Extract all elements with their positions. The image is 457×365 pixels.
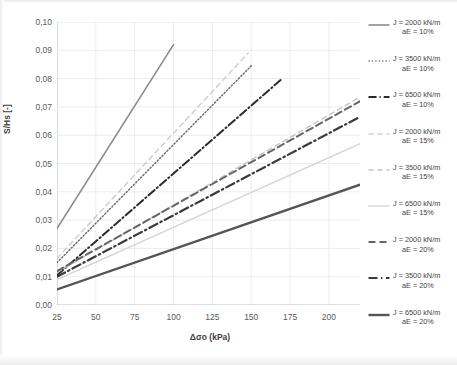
y-tick-label: 0,01 — [8, 272, 52, 282]
legend-label-line2: aE = 20% — [393, 281, 440, 290]
legend-item-1[interactable]: J = 3500 kN/maE = 10% — [368, 54, 456, 73]
series-line-7 — [57, 117, 360, 277]
y-tick-label: 0,08 — [8, 74, 52, 84]
legend-item-3[interactable]: J = 2000 kN/maE = 15% — [368, 127, 456, 146]
legend-swatch-icon — [368, 200, 390, 212]
plot-canvas — [57, 22, 360, 305]
legend-item-0[interactable]: J = 2000 kN/maE = 10% — [368, 18, 456, 37]
x-tick-label: 100 — [159, 312, 189, 322]
legend-swatch-icon — [368, 128, 390, 140]
legend-label-line2: aE = 10% — [393, 64, 440, 73]
legend-label-line1: J = 3500 kN/m — [393, 271, 440, 280]
legend-label-line2: aE = 15% — [393, 172, 440, 181]
legend-label-line2: aE = 15% — [393, 208, 440, 217]
y-tick-label: 0,02 — [8, 243, 52, 253]
y-axis-title: S/Hs [-] — [2, 104, 12, 134]
legend-swatch-icon — [368, 272, 390, 284]
legend-label-line1: J = 2000 kN/m — [393, 235, 440, 244]
legend-swatch-icon — [368, 164, 390, 176]
legend-swatch-icon — [368, 236, 390, 248]
y-tick-label: 0,04 — [8, 187, 52, 197]
legend-label: J = 3500 kN/maE = 20% — [393, 271, 440, 290]
x-tick-label: 150 — [236, 312, 266, 322]
legend-swatch-icon — [368, 309, 390, 321]
legend-item-2[interactable]: J = 6500 kN/maE = 10% — [368, 90, 456, 109]
legend-label-line1: J = 6500 kN/m — [393, 308, 440, 317]
legend-item-4[interactable]: J = 3500 kN/maE = 15% — [368, 163, 456, 182]
legend-label: J = 6500 kN/maE = 10% — [393, 90, 440, 109]
legend-item-6[interactable]: J = 2000 kN/maE = 20% — [368, 235, 456, 254]
series-line-2 — [57, 79, 282, 276]
series-line-3 — [57, 53, 248, 258]
y-tick-label: 0,09 — [8, 45, 52, 55]
legend-label: J = 2000 kN/maE = 20% — [393, 235, 440, 254]
y-tick-label: 0,05 — [8, 159, 52, 169]
legend-label-line2: aE = 15% — [393, 136, 440, 145]
legend-label-line1: J = 2000 kN/m — [393, 18, 440, 27]
x-tick-label: 25 — [42, 312, 72, 322]
legend-item-5[interactable]: J = 6500 kN/maE = 15% — [368, 199, 456, 218]
legend-label-line2: aE = 10% — [393, 100, 440, 109]
x-axis-title: Δσo (kPa) — [150, 332, 270, 342]
plot-area — [57, 22, 360, 305]
legend-swatch-icon — [368, 55, 390, 67]
legend-label: J = 6500 kN/maE = 15% — [393, 199, 440, 218]
legend-label: J = 3500 kN/maE = 10% — [393, 54, 440, 73]
legend-item-7[interactable]: J = 3500 kN/maE = 20% — [368, 271, 456, 290]
x-tick-label: 75 — [120, 312, 150, 322]
legend-swatch-icon — [368, 19, 390, 31]
legend-label-line1: J = 6500 kN/m — [393, 199, 440, 208]
legend-label: J = 2000 kN/maE = 15% — [393, 127, 440, 146]
legend-label-line1: J = 3500 kN/m — [393, 163, 440, 172]
legend-label-line2: aE = 20% — [393, 245, 440, 254]
series-line-8 — [57, 185, 360, 290]
legend-item-8[interactable]: J = 6500 kN/maE = 20% — [368, 308, 456, 327]
legend-label-line2: aE = 10% — [393, 27, 440, 36]
x-tick-label: 125 — [197, 312, 227, 322]
legend-swatch-icon — [368, 91, 390, 103]
y-tick-label: 0,00 — [8, 300, 52, 310]
legend-label-line2: aE = 20% — [393, 317, 440, 326]
y-tick-label: 0,10 — [8, 17, 52, 27]
chart-figure: 0,000,010,020,030,040,050,060,070,080,09… — [0, 0, 457, 365]
series-line-5 — [57, 144, 360, 280]
series-line-6 — [57, 101, 360, 271]
legend-label: J = 2000 kN/maE = 10% — [393, 18, 440, 37]
y-tick-label: 0,07 — [8, 102, 52, 112]
legend-label: J = 6500 kN/maE = 20% — [393, 308, 440, 327]
legend-label-line1: J = 2000 kN/m — [393, 127, 440, 136]
legend-label-line1: J = 6500 kN/m — [393, 90, 440, 99]
legend-label-line1: J = 3500 kN/m — [393, 54, 440, 63]
chart-legend: J = 2000 kN/maE = 10%J = 3500 kN/maE = 1… — [368, 18, 456, 348]
y-tick-label: 0,03 — [8, 215, 52, 225]
x-tick-label: 175 — [275, 312, 305, 322]
y-tick-label: 0,06 — [8, 130, 52, 140]
series-line-0 — [57, 45, 174, 229]
x-tick-label: 50 — [81, 312, 111, 322]
x-tick-label: 200 — [314, 312, 344, 322]
legend-label: J = 3500 kN/maE = 15% — [393, 163, 440, 182]
